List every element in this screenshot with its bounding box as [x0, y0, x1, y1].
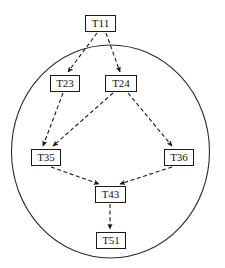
edge-t11-to-t23 — [68, 33, 97, 72]
node-label: T35 — [37, 152, 55, 163]
edge-t36-to-t43 — [120, 167, 172, 184]
node-t43[interactable]: T43 — [95, 186, 126, 203]
node-t51[interactable]: T51 — [96, 232, 126, 249]
node-label: T51 — [102, 235, 120, 246]
diagram-canvas: T11T23T24T35T36T43T51 — [0, 0, 225, 268]
node-t23[interactable]: T23 — [50, 75, 80, 92]
edge-t35-to-t43 — [51, 167, 99, 184]
graph-svg — [0, 0, 225, 268]
node-label: T36 — [170, 152, 188, 163]
node-t36[interactable]: T36 — [164, 149, 194, 166]
node-label: T43 — [102, 189, 120, 200]
edge-t24-to-t35 — [53, 93, 113, 146]
node-label: T23 — [56, 78, 74, 89]
edge-t23-to-t35 — [43, 93, 63, 146]
node-label: T11 — [92, 18, 109, 29]
node-label: T24 — [112, 78, 130, 89]
node-t35[interactable]: T35 — [31, 149, 61, 166]
edge-t24-to-t36 — [128, 93, 172, 146]
node-t24[interactable]: T24 — [105, 75, 137, 92]
node-t11[interactable]: T11 — [85, 15, 116, 32]
edge-t11-to-t24 — [106, 33, 120, 72]
